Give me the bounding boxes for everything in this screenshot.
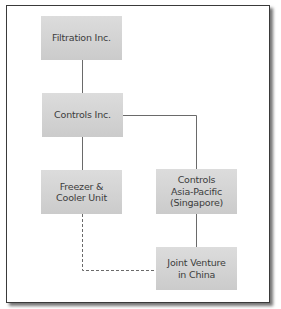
edge-controls-asia-pacific: [122, 116, 197, 170]
node-controls-asia-pacific: Controls Asia-Pacific (Singapore): [156, 169, 237, 214]
node-joint-venture-china: Joint Venture in China: [156, 247, 237, 290]
edge-freezer-joint-venture-dashed: [83, 214, 157, 271]
node-controls-inc: Controls Inc.: [42, 93, 123, 137]
node-filtration-inc: Filtration Inc.: [41, 16, 122, 60]
node-freezer-cooler-unit: Freezer & Cooler Unit: [41, 170, 122, 214]
